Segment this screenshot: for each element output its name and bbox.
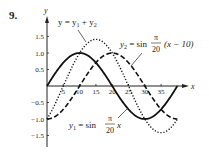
problem-number: 9. [9, 9, 18, 21]
sum-label-sub2: 2 [94, 22, 97, 28]
svg-text:y = y1 + y2: y = y1 + y2 [58, 17, 97, 28]
y-tick-label: −1.5 [31, 132, 44, 140]
sinusoid-sum-chart: 9. y x 5101520253035 1.51.00.5−0.5−1.0−1… [0, 0, 209, 155]
y1-frac-num: π [108, 114, 112, 123]
sum-label-plus: + y [80, 17, 95, 27]
y-tick-label: −0.5 [31, 99, 44, 107]
y-axis-label: y [43, 6, 48, 15]
sum-label-lhs: y = y [58, 17, 77, 27]
x-axis-arrow-icon [182, 84, 189, 88]
y2-leader-line [131, 53, 142, 66]
x-axis-label: x [190, 82, 195, 91]
x-tick-label: 15 [92, 88, 100, 96]
y1-annotation: y1 = sin π 20 x [68, 108, 128, 135]
y1-frac-den: 20 [106, 126, 114, 135]
svg-text:y2 = sin: y2 = sin [119, 39, 148, 50]
x-tick-label: 10 [76, 88, 84, 96]
y2-frac-num: π [154, 33, 158, 42]
y2-label-arg: (x − 10) [164, 39, 194, 49]
sum-annotation: y = y1 + y2 [58, 17, 97, 42]
y-tick-label: 1.0 [35, 50, 44, 58]
x-tick-label: 25 [125, 88, 133, 96]
y2-frac-den: 20 [152, 45, 160, 54]
y1-label-eq: = sin [76, 120, 97, 130]
y-tick-label: −1.0 [31, 116, 44, 124]
y-axis-arrow-icon [45, 16, 49, 23]
y1-leader-line [118, 108, 128, 118]
y-ticks: 1.51.00.5−0.5−1.0−1.5 [31, 33, 49, 140]
y2-label-eq: = sin [127, 39, 148, 49]
y1-label-arg: x [116, 120, 121, 130]
sum-leader-line [78, 30, 86, 42]
x-tick-label: 35 [158, 88, 166, 96]
svg-text:y1 = sin: y1 = sin [68, 120, 97, 131]
y-tick-label: 1.5 [35, 33, 44, 41]
y2-annotation: y2 = sin π 20 (x − 10) [119, 33, 194, 66]
y-tick-label: 0.5 [35, 66, 44, 74]
